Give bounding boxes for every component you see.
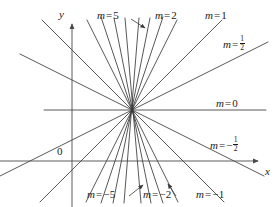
slope-label-m-5-num: 5 (113, 9, 119, 21)
y-axis-label: y (59, 9, 64, 20)
fraction-negative-one-half: 12 (233, 136, 238, 153)
slope-label-m-neg-1-num: −1 (212, 188, 224, 200)
slope-label-m-negative-1: m=−1 (196, 189, 224, 200)
slope-label-m-0-var: m (216, 97, 224, 109)
slope-label-m-2: m=2 (155, 10, 177, 21)
slope-label-m-5-var: m (97, 9, 105, 21)
leader-arrow-m-neg-5 (129, 185, 143, 196)
line-slope-negative-1 (42, 20, 224, 202)
slope-label-m-negative-2: m=−2 (143, 189, 171, 200)
slope-label-m-neg-1-var: m (196, 188, 204, 200)
origin-label: 0 (57, 146, 63, 157)
line-slope-steep-positive (124, 18, 139, 203)
slope-label-m-neg-5-var: m (87, 188, 95, 200)
slope-label-m-one-half: m=12 (223, 35, 245, 52)
slope-label-m-negative-5: m=−5 (87, 189, 115, 200)
slope-label-m-5: m=5 (97, 10, 119, 21)
line-family-figure: y x 0 m=5 m=2 m=1 m=12 m=0 m=−12 m=−5 m=… (0, 0, 280, 207)
figure-canvas (0, 0, 280, 207)
slope-label-m-one-half-eq: = (231, 38, 239, 50)
fraction-one-half: 12 (240, 35, 245, 52)
slope-label-m-2-var: m (155, 9, 163, 21)
slope-label-m-1: m=1 (205, 10, 227, 21)
slope-label-m-neg-2-var: m (143, 188, 151, 200)
slope-label-m-neg-5-num: −5 (103, 188, 115, 200)
slope-label-m-0-num: 0 (232, 97, 238, 109)
slope-label-m-2-num: 2 (171, 9, 177, 21)
slope-label-m-neg-one-half-sign: − (226, 139, 232, 151)
slope-label-m-neg-2-num: −2 (159, 188, 171, 200)
x-axis-label: x (265, 166, 270, 177)
slope-label-m-1-num: 1 (221, 9, 227, 21)
slope-label-m-one-half-var: m (223, 38, 231, 50)
fraction-negative-one-half-denominator: 2 (233, 145, 238, 153)
slope-label-m-1-var: m (205, 9, 213, 21)
slope-label-m-0: m=0 (216, 98, 238, 109)
slope-label-m-negative-one-half: m=−12 (210, 136, 239, 153)
fraction-one-half-denominator: 2 (240, 44, 245, 52)
line-slope-one-half (0, 42, 268, 176)
slope-label-m-neg-one-half-var: m (210, 139, 218, 151)
